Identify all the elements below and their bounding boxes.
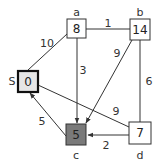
node-c-value: 5 [72, 128, 80, 142]
weight-s-a: 10 [40, 37, 54, 50]
weight-s-d: 9 [113, 105, 120, 118]
node-a-label: a [73, 6, 80, 19]
node-a-value: 8 [73, 22, 81, 36]
weight-c-s: 5 [39, 115, 46, 128]
weight-a-b: 1 [105, 17, 112, 30]
node-c: 5 c [66, 124, 86, 162]
node-d: 7 d [129, 122, 151, 162]
node-s-label: S [9, 75, 16, 88]
node-b-label: b [137, 6, 144, 19]
node-d-label: d [137, 149, 144, 162]
node-s: 0 S [9, 71, 38, 92]
graph-diagram: 10 1 3 9 6 9 5 2 0 S 8 a 14 b 5 c 7 d [0, 0, 165, 163]
weight-b-c: 9 [114, 47, 121, 60]
weight-a-c: 3 [80, 64, 87, 77]
node-b: 14 b [130, 6, 150, 41]
node-s-value: 0 [24, 75, 32, 89]
node-d-value: 7 [136, 126, 144, 140]
node-a: 8 a [67, 6, 86, 39]
node-c-label: c [73, 149, 79, 162]
weight-d-c: 2 [103, 139, 110, 152]
weight-b-d: 6 [146, 75, 153, 88]
edge-c-s [30, 93, 66, 136]
node-b-value: 14 [132, 23, 147, 37]
